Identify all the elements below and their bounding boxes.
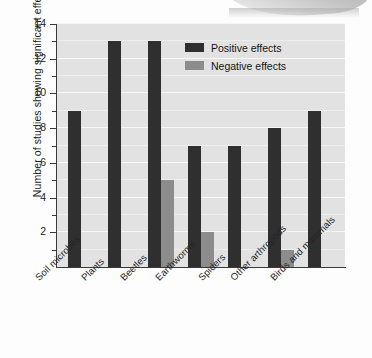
bar-positive [228, 146, 241, 268]
page-scan-shadow-secondary [229, 8, 359, 18]
y-tick-major [50, 232, 57, 233]
legend-label-negative: Negative effects [211, 60, 286, 72]
y-tick-major [50, 24, 57, 25]
y-axis-title: Number of studies showing significant ef… [31, 0, 43, 205]
y-tick-minor [52, 76, 57, 77]
y-tick-major [50, 163, 57, 164]
page-scan-shadow [220, 0, 372, 21]
x-axis-labels: Soil microbesPlantsBeetlesEarthwormsSpid… [0, 269, 359, 358]
y-tick-label: 2 [22, 226, 46, 237]
y-tick-label: 10 [22, 87, 46, 98]
y-tick-minor [52, 180, 57, 181]
y-tick-minor [52, 146, 57, 147]
y-tick-label: 8 [22, 122, 46, 133]
y-tick-label: 6 [22, 157, 46, 168]
bar-positive [148, 41, 161, 267]
legend-item-negative: Negative effects [185, 58, 286, 73]
y-tick-label: 14 [22, 18, 46, 29]
y-tick-label: 4 [22, 192, 46, 203]
chart-legend: Positive effects Negative effects [185, 40, 286, 76]
bar-positive [108, 41, 121, 267]
y-tick-major [50, 128, 57, 129]
legend-swatch-positive-icon [185, 43, 204, 52]
y-tick-major [50, 93, 57, 94]
y-tick-minor [52, 41, 57, 42]
y-tick-minor [52, 215, 57, 216]
legend-item-positive: Positive effects [185, 40, 286, 55]
legend-label-positive: Positive effects [211, 42, 281, 54]
y-tick-label: 12 [22, 53, 46, 64]
legend-swatch-negative-icon [185, 61, 204, 70]
y-tick-major [50, 198, 57, 199]
y-tick-major [50, 59, 57, 60]
y-tick-minor [52, 111, 57, 112]
